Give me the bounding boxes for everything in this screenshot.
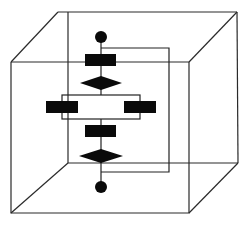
process-step-1 (85, 54, 116, 66)
process-step-right (124, 101, 156, 113)
end-node-icon (95, 181, 107, 193)
start-node-icon (95, 31, 107, 43)
process-step-left (46, 101, 78, 113)
cube-flowchart-diagram (0, 0, 247, 226)
process-step-2 (85, 125, 116, 137)
